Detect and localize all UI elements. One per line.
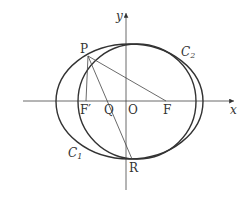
segment-pf xyxy=(88,56,166,101)
point-f-label: F xyxy=(163,103,171,117)
ellipse-diagram: y x P F′ Q O F R C2 C1 xyxy=(0,0,249,202)
ellipse-c2 xyxy=(78,44,196,159)
curve-c2-label: C2 xyxy=(181,45,195,60)
origin-label: O xyxy=(128,103,138,117)
point-q-label: Q xyxy=(104,103,114,117)
y-axis-label: y xyxy=(115,9,123,23)
x-axis-label: x xyxy=(230,103,237,117)
point-r-label: R xyxy=(129,161,139,175)
point-f-prime-label: F′ xyxy=(80,103,91,117)
segment-pf-prime xyxy=(86,56,88,101)
curve-c1-label: C1 xyxy=(68,146,82,161)
diagram-canvas: y x P F′ Q O F R C2 C1 xyxy=(0,0,249,202)
point-p-label: P xyxy=(80,42,88,56)
